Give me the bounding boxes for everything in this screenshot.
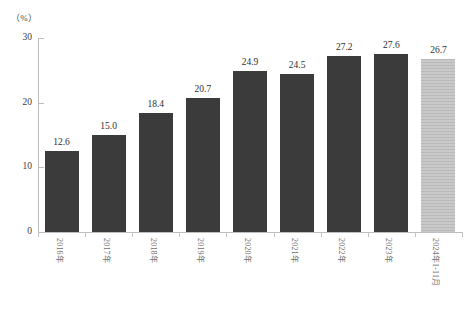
bar[interactable]: [233, 71, 267, 232]
bar-value-label: 18.4: [134, 99, 178, 109]
bar-value-label: 20.7: [181, 84, 225, 94]
bar-value-label: 26.7: [416, 45, 460, 55]
x-category-label: 2024年1-11月: [431, 238, 442, 286]
bar[interactable]: [139, 113, 173, 232]
x-category-label: 2021年: [290, 238, 301, 263]
bar-value-label: 27.6: [369, 40, 413, 50]
x-category-label: 2019年: [196, 238, 207, 263]
bar[interactable]: [327, 56, 361, 232]
bar-value-label: 24.5: [275, 60, 319, 70]
bar[interactable]: [45, 151, 79, 232]
x-category-label: 2018年: [149, 238, 160, 263]
bar[interactable]: [280, 74, 314, 232]
bar[interactable]: [421, 59, 455, 232]
axis-unit-label: （%）: [11, 11, 37, 24]
x-category-label: 2022年: [337, 238, 348, 263]
x-tick-mark: [368, 232, 369, 237]
x-tick-mark: [226, 232, 227, 237]
x-tick-mark: [462, 232, 463, 237]
x-tick-mark: [38, 232, 39, 237]
x-tick-mark: [321, 232, 322, 237]
bar[interactable]: [374, 54, 408, 232]
x-category-label: 2017年: [102, 238, 113, 263]
x-category-label: 2016年: [55, 238, 66, 263]
x-tick-mark: [179, 232, 180, 237]
bar[interactable]: [92, 135, 126, 232]
bar-value-label: 27.2: [322, 42, 366, 52]
bar-value-label: 24.9: [228, 57, 272, 67]
y-tick-label: 0: [6, 227, 32, 237]
x-tick-mark: [85, 232, 86, 237]
bar[interactable]: [186, 98, 220, 232]
x-tick-mark: [132, 232, 133, 237]
x-category-label: 2020年: [243, 238, 254, 263]
bar-value-label: 12.6: [40, 137, 84, 147]
y-tick-label: 30: [6, 33, 32, 43]
bar-chart: （%） 0102030 12.615.018.420.724.924.527.2…: [0, 0, 470, 314]
y-tick-label: 20: [6, 98, 32, 108]
plot-area: [38, 38, 462, 232]
x-tick-mark: [274, 232, 275, 237]
x-tick-mark: [415, 232, 416, 237]
bar-value-label: 15.0: [87, 121, 131, 131]
y-tick-label: 10: [6, 162, 32, 172]
x-category-label: 2023年: [384, 238, 395, 263]
x-axis-line: [38, 232, 462, 233]
